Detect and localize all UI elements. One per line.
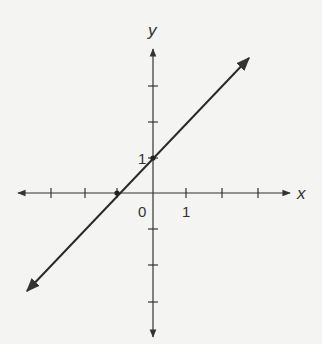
- plotted-line: [27, 58, 249, 291]
- x-axis-label: x: [296, 184, 306, 203]
- x-one-label: 1: [182, 203, 190, 220]
- origin-label: 0: [138, 203, 146, 220]
- y-axis-label: y: [147, 21, 158, 40]
- x-intercept-point: [114, 190, 119, 195]
- y-one-label: 1: [138, 150, 146, 167]
- y-intercept-point: [150, 155, 155, 160]
- coordinate-plane: y x 1 0 1: [0, 0, 322, 344]
